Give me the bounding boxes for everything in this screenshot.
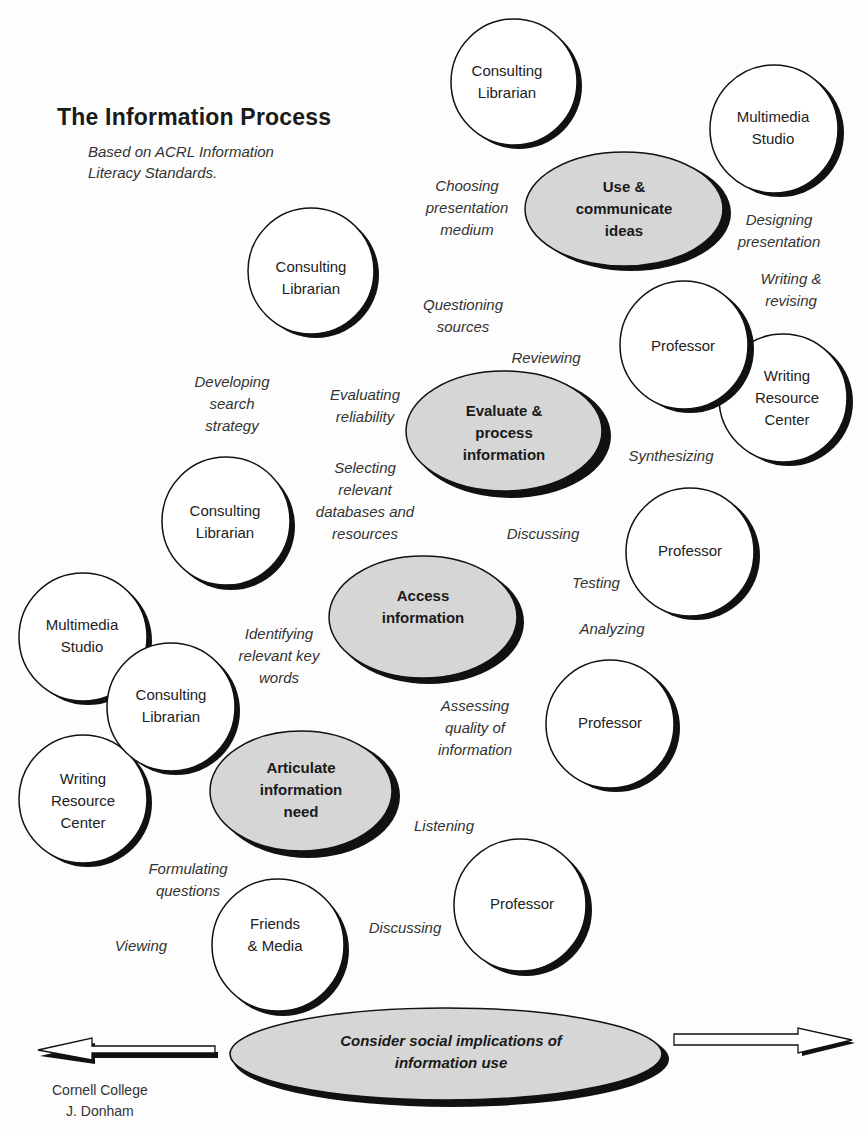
node-label: Friends& Media bbox=[247, 913, 302, 957]
activity-label: Identifyingrelevant keywords bbox=[239, 623, 320, 689]
node-label: ConsultingLibrarian bbox=[276, 256, 347, 300]
activity-label: Listening bbox=[414, 815, 474, 837]
activity-label: Questioningsources bbox=[423, 294, 503, 338]
node-label: WritingResourceCenter bbox=[755, 365, 819, 431]
node-label: MultimediaStudio bbox=[46, 614, 119, 658]
node-label: ConsultingLibrarian bbox=[136, 684, 207, 728]
activity-label: Designingpresentation bbox=[738, 209, 821, 253]
page-title: The Information Process bbox=[57, 104, 331, 131]
activity-label: Reviewing bbox=[511, 347, 580, 369]
stage-label-access: Access information bbox=[382, 585, 465, 629]
node-label: MultimediaStudio bbox=[737, 106, 810, 150]
activity-label: Viewing bbox=[115, 935, 167, 957]
activity-label: Assessingquality ofinformation bbox=[438, 695, 512, 761]
arrow-right-icon bbox=[674, 1028, 855, 1056]
node-label: ConsultingLibrarian bbox=[472, 60, 543, 104]
activity-label: Evaluatingreliability bbox=[330, 384, 400, 428]
activity-label: Formulatingquestions bbox=[148, 858, 227, 902]
activity-label: Discussing bbox=[369, 917, 442, 939]
node-label: Professor bbox=[578, 712, 642, 734]
node-label: Professor bbox=[651, 335, 715, 357]
stage-label-articulate: Articulate information need bbox=[260, 757, 343, 823]
arrow-left-icon bbox=[38, 1038, 218, 1064]
activity-label: Discussing bbox=[507, 523, 580, 545]
activity-label: Analyzing bbox=[579, 618, 644, 640]
stage-label-evaluate: Evaluate & process information bbox=[463, 400, 546, 466]
activity-label: Selectingrelevantdatabases andresources bbox=[316, 457, 414, 545]
credit: Cornell College J. Donham bbox=[52, 1080, 148, 1122]
node-label: ConsultingLibrarian bbox=[190, 500, 261, 544]
node-label: Professor bbox=[658, 540, 722, 562]
page-subtitle: Based on ACRL Information Literacy Stand… bbox=[88, 141, 274, 183]
activity-label: Choosingpresentationmedium bbox=[426, 175, 509, 241]
activity-label: Testing bbox=[572, 572, 620, 594]
stage-label-social: Consider social implications of informat… bbox=[340, 1030, 562, 1074]
activity-label: Writing &revising bbox=[761, 268, 822, 312]
stage-label-use: Use & communicate ideas bbox=[576, 176, 673, 242]
activity-label: Synthesizing bbox=[628, 445, 713, 467]
node-label: Professor bbox=[490, 893, 554, 915]
node-label: WritingResourceCenter bbox=[51, 768, 115, 834]
activity-label: Developingsearchstrategy bbox=[194, 371, 269, 437]
